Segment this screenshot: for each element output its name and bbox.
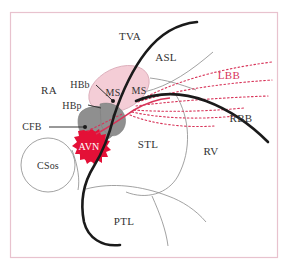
label-asl: ASL bbox=[155, 51, 177, 63]
label-lbb: LBB bbox=[218, 69, 240, 81]
label-hbb: HBb bbox=[70, 79, 90, 90]
label-hbp: HBp bbox=[62, 100, 82, 111]
hbb-leader-dot bbox=[111, 99, 115, 103]
label-cfb: CFB bbox=[22, 121, 42, 132]
label-tva: TVA bbox=[119, 30, 141, 42]
label-avn: AVN bbox=[79, 141, 100, 152]
label-ptl: PTL bbox=[114, 215, 134, 227]
cfb-leader-dot bbox=[83, 125, 87, 129]
anatomical-figure: TVA ASL LBB RBB RA RV STL PTL HBb HBp CF… bbox=[0, 0, 289, 270]
label-rv: RV bbox=[204, 145, 219, 157]
label-ms-right: MS bbox=[132, 85, 147, 96]
figure-frame bbox=[11, 13, 278, 258]
label-csos: CSos bbox=[37, 160, 59, 171]
label-ms-left: MS bbox=[106, 87, 121, 98]
label-rbb: RBB bbox=[230, 112, 253, 124]
label-stl: STL bbox=[138, 138, 158, 150]
label-ra: RA bbox=[41, 84, 57, 96]
diagram-canvas: TVA ASL LBB RBB RA RV STL PTL HBb HBp CF… bbox=[0, 0, 289, 270]
